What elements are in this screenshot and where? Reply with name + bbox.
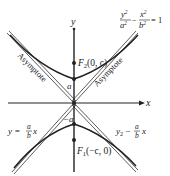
hyperbola-diagram: y x F2(0, c) F1(−c, 0) a −a Asymptote As… <box>0 0 170 176</box>
svg-text:y2: y2 <box>120 9 128 19</box>
focus-lower-point <box>72 138 76 142</box>
x-axis-arrow-icon <box>139 101 145 106</box>
y-axis-end-dot <box>73 28 76 31</box>
asymptote-left-equation: y = a b x <box>7 122 37 140</box>
svg-text:−: − <box>132 15 137 25</box>
svg-text:= 1: = 1 <box>151 15 162 25</box>
svg-text:x2: x2 <box>139 9 147 19</box>
x-axis-label: x <box>145 97 151 108</box>
svg-text:a: a <box>27 122 31 131</box>
svg-text:y =: y = <box>7 126 20 136</box>
vertex-upper-point <box>72 77 76 81</box>
focus-upper-point <box>72 61 76 65</box>
diagram-canvas: y x F2(0, c) F1(−c, 0) a −a Asymptote As… <box>0 0 170 176</box>
svg-text:x: x <box>32 126 37 136</box>
svg-text:a2: a2 <box>120 20 127 30</box>
svg-text:a: a <box>135 122 139 131</box>
focus-lower-label: F1(−c, 0) <box>76 146 111 157</box>
vertex-upper-label: a <box>67 81 72 91</box>
y-axis-label: y <box>70 16 76 27</box>
svg-text:y2 −: y2 − <box>115 126 130 137</box>
svg-text:b2: b2 <box>139 20 146 30</box>
vertex-lower-label: −a <box>63 114 74 124</box>
asymptote-right-bottom <box>72 103 138 172</box>
svg-text:b: b <box>135 131 139 140</box>
svg-text:b: b <box>27 131 31 140</box>
asymptote-right-equation: y2 − a b x <box>115 122 146 140</box>
svg-text:x: x <box>141 126 146 136</box>
origin-point <box>72 101 76 105</box>
focus-upper-label: F2(0, c) <box>77 58 107 69</box>
hyperbola-equation: y2 a2 − x2 b2 = 1 <box>120 9 162 30</box>
